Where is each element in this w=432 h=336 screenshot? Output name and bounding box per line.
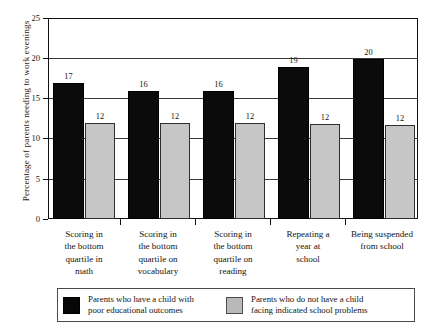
bar-value-light-3: 12: [235, 112, 265, 121]
bar-dark-1[interactable]: [53, 83, 84, 219]
y-tick-label-0: 0: [18, 214, 40, 224]
x-tick-mark-1: [120, 219, 121, 225]
bar-light-1[interactable]: [85, 123, 115, 219]
y-tick-label-25: 25: [18, 13, 40, 23]
category-label-5: Being suspended from school: [342, 228, 422, 253]
y-axis-title: Percentage of parents needing to work ev…: [21, 1, 31, 221]
bar-value-dark-2: 16: [128, 80, 159, 89]
legend-label-2: Parents who do not have a child facing i…: [251, 294, 368, 317]
bar-value-dark-5: 20: [353, 48, 384, 57]
bar-light-4[interactable]: [310, 124, 340, 219]
legend-entry-2[interactable]: Parents who do not have a child facing i…: [226, 289, 368, 321]
y-tick-label-20: 20: [18, 53, 40, 63]
bar-dark-5[interactable]: [353, 59, 384, 219]
y-tick-label-10: 10: [18, 133, 40, 143]
category-label-2: Scoring in the bottom quartile on vocabu…: [122, 228, 194, 278]
bar-value-light-1: 12: [85, 112, 115, 121]
bar-light-3[interactable]: [235, 123, 265, 219]
bar-light-5[interactable]: [385, 125, 415, 219]
bar-value-light-4: 12: [310, 113, 340, 122]
bar-light-2[interactable]: [160, 123, 190, 219]
x-tick-mark-3: [270, 219, 271, 225]
bar-value-dark-1: 17: [53, 72, 84, 81]
category-label-4: Repeating a year at school: [272, 228, 344, 265]
legend-entry-1[interactable]: Parents who have a child with poor educa…: [63, 289, 194, 321]
y-tick-label-5: 5: [18, 174, 40, 184]
bar-value-dark-3: 16: [203, 80, 234, 89]
bar-value-dark-4: 19: [278, 56, 309, 65]
bar-dark-2[interactable]: [128, 91, 159, 219]
x-tick-mark-4: [345, 219, 346, 225]
legend-label-1: Parents who have a child with poor educa…: [88, 294, 194, 317]
y-tick-label-15: 15: [18, 93, 40, 103]
category-label-1: Scoring in the bottom quartile in math: [48, 228, 120, 278]
light-swatch-icon: [226, 297, 243, 314]
dark-swatch-icon: [63, 297, 80, 314]
bar-dark-4[interactable]: [278, 67, 309, 219]
legend: Parents who have a child with poor educa…: [57, 288, 415, 322]
bar-value-light-2: 12: [160, 112, 190, 121]
x-tick-mark-2: [195, 219, 196, 225]
bar-value-light-5: 12: [385, 114, 415, 123]
category-label-3: Scoring in the bottom quartile on readin…: [197, 228, 269, 278]
bar-chart: Percentage of parents needing to work ev…: [0, 0, 432, 336]
bar-dark-3[interactable]: [203, 91, 234, 219]
y-tick-mark-0: [43, 219, 48, 220]
